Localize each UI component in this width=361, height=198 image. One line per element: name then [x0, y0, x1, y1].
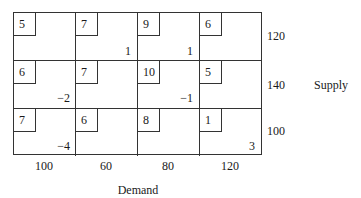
cost-box: 1 [200, 109, 222, 132]
cost-box: 5 [14, 13, 36, 36]
supply-value: 120 [267, 29, 285, 43]
table-cell: 6 [199, 13, 261, 61]
table-cell: 7 1 [75, 13, 137, 61]
table-cell: 8 [137, 108, 199, 156]
table-cell: 9 1 [137, 13, 199, 61]
supply-value: 140 [267, 78, 285, 92]
table-cell: 5 [199, 60, 261, 108]
cost-box: 9 [138, 13, 160, 36]
table-cell: 1 3 [199, 108, 261, 156]
table-cell: 7 −4 [14, 108, 76, 156]
demand-value: 80 [137, 159, 199, 173]
table-cell: 10 −1 [137, 60, 199, 108]
table-cell: 6 −2 [14, 60, 76, 108]
cell-value: 3 [249, 139, 255, 153]
cost-box: 7 [76, 13, 98, 36]
cost-box: 6 [200, 13, 222, 36]
demand-value: 60 [75, 159, 137, 173]
cost-box: 5 [200, 61, 222, 84]
cost-box: 8 [138, 109, 160, 132]
transportation-table: 5 7 1 9 1 6 6 −2 7 10 −1 5 7 −4 6 8 [13, 12, 262, 155]
cost-box: 7 [14, 109, 36, 132]
cell-value: 1 [125, 44, 131, 58]
cost-box: 7 [76, 61, 98, 84]
table-cell: 6 [75, 108, 137, 156]
table-cell: 7 [75, 60, 137, 108]
cost-box: 10 [138, 61, 160, 84]
cell-value: −2 [57, 91, 70, 105]
demand-label: Demand [100, 183, 176, 197]
supply-label: Supply [314, 78, 348, 92]
demand-value: 100 [13, 159, 75, 173]
demand-value: 120 [199, 159, 261, 173]
supply-value: 100 [267, 124, 285, 138]
cost-box: 6 [14, 61, 36, 84]
table-cell: 5 [14, 13, 76, 61]
cell-value: 1 [187, 44, 193, 58]
cell-value: −1 [180, 91, 193, 105]
cost-box: 6 [76, 109, 98, 132]
cell-value: −4 [57, 139, 70, 153]
